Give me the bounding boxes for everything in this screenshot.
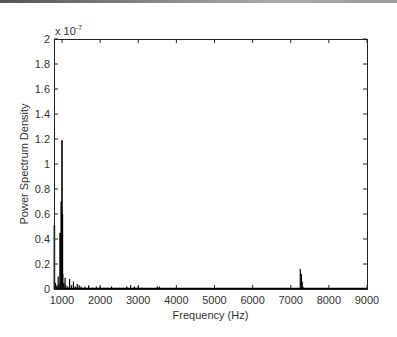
y-axis-ticks: 00.20.40.60.811.21.41.61.82 — [35, 33, 367, 295]
x-axis-ticks: 100020003000400050006000700080009000 — [50, 39, 379, 306]
x-tick-label: 1000 — [50, 294, 74, 306]
psd-chart: 100020003000400050006000700080009000 00.… — [0, 0, 397, 337]
y-tick-label: 1.2 — [35, 133, 50, 145]
plot-area — [55, 40, 368, 290]
y-tick-label: 1.4 — [35, 108, 50, 120]
y-multiplier-exponent: -7 — [76, 24, 82, 31]
x-tick-label: 7000 — [279, 294, 303, 306]
y-tick-label: 0.8 — [35, 183, 50, 195]
y-axis-multiplier: x 10-7 — [55, 24, 82, 37]
x-tick-label: 4000 — [164, 294, 188, 306]
x-tick-label: 5000 — [202, 294, 226, 306]
y-axis-label: Power Spectrum Density — [18, 103, 30, 225]
y-tick-label: 0.2 — [35, 258, 50, 270]
x-tick-label: 6000 — [240, 294, 264, 306]
x-tick-label: 2000 — [88, 294, 112, 306]
x-tick-label: 3000 — [126, 294, 150, 306]
x-tick-label: 9000 — [355, 294, 379, 306]
y-tick-label: 0.4 — [35, 233, 50, 245]
y-tick-label: 0 — [44, 283, 50, 295]
y-tick-label: 1.6 — [35, 83, 50, 95]
y-tick-label: 1.8 — [35, 58, 50, 70]
psd-series — [54, 140, 367, 289]
y-tick-label: 0.6 — [35, 208, 50, 220]
y-tick-label: 2 — [44, 33, 50, 45]
x-tick-label: 8000 — [317, 294, 341, 306]
y-tick-label: 1 — [44, 158, 50, 170]
x-axis-label: Frequency (Hz) — [173, 309, 249, 321]
y-multiplier-base: x 10 — [55, 25, 76, 37]
